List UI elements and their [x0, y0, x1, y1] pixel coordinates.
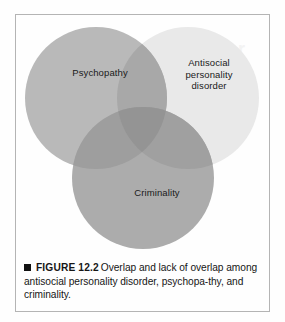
figure-number-label: FIGURE 12.2 — [36, 262, 99, 273]
figure-container: disorder — [0, 0, 285, 322]
venn-circles-svg — [16, 15, 269, 255]
square-bullet-icon — [24, 264, 31, 271]
figure-caption: FIGURE 12.2Overlap and lack of overlap a… — [24, 261, 262, 302]
venn-diagram: disorder — [16, 15, 269, 255]
